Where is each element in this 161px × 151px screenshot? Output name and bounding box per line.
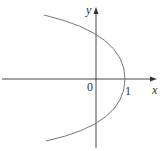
- y-axis-label: y: [86, 4, 91, 16]
- parabola-curve: [44, 15, 125, 141]
- x-intercept-label: 1: [125, 85, 131, 97]
- x-axis-label: x: [152, 84, 157, 96]
- y-axis-arrow-icon: [94, 7, 99, 14]
- graph-canvas: [0, 0, 161, 151]
- x-axis-arrow-icon: [150, 77, 157, 82]
- origin-label: 0: [87, 81, 93, 93]
- parabola-figure: y x 0 1: [0, 0, 161, 151]
